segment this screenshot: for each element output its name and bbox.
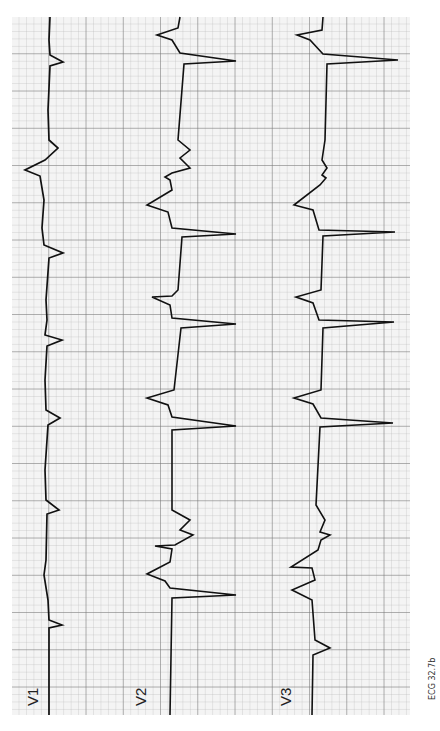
lead-label-v1: V1: [24, 688, 41, 706]
grid-major: [12, 17, 410, 715]
lead-label-v3: V3: [277, 688, 294, 706]
lead-label-v2: V2: [132, 688, 149, 706]
figure-caption: ECG 32.7b: [428, 658, 437, 700]
ecg-strip: [0, 0, 440, 731]
